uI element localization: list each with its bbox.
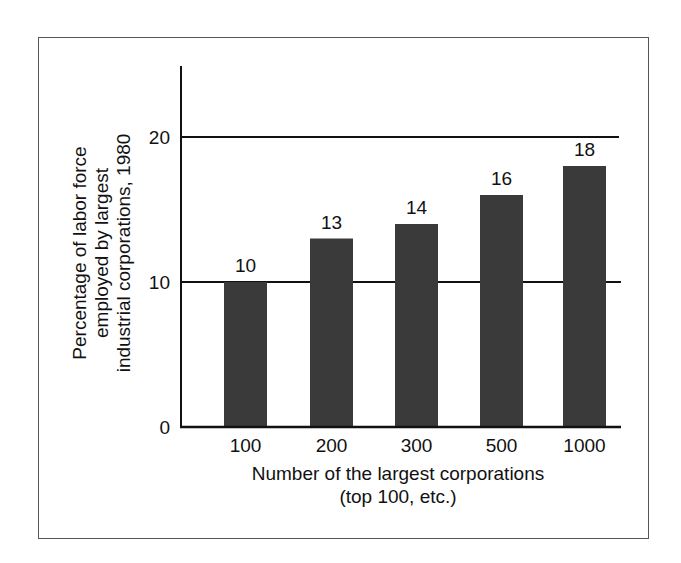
data-label-1000: 18 bbox=[574, 139, 595, 160]
data-label-100: 10 bbox=[235, 255, 256, 276]
y-axis-title-line1: Percentage of labor force bbox=[69, 146, 90, 359]
bar-500 bbox=[480, 195, 523, 427]
x-tick-200: 200 bbox=[316, 435, 348, 456]
x-tick-500: 500 bbox=[486, 435, 518, 456]
x-axis-subtitle: (top 100, etc.) bbox=[339, 486, 456, 507]
data-label-200: 13 bbox=[321, 212, 342, 233]
bar-1000 bbox=[563, 166, 606, 427]
x-tick-300: 300 bbox=[401, 435, 433, 456]
x-tick-100: 100 bbox=[230, 435, 262, 456]
y-tick-10: 10 bbox=[149, 272, 170, 293]
bar-300 bbox=[395, 224, 438, 427]
y-tick-20: 20 bbox=[149, 127, 170, 148]
bar-100 bbox=[224, 282, 267, 427]
x-tick-1000: 1000 bbox=[563, 435, 605, 456]
y-axis-title-line2: employed by largest bbox=[91, 167, 112, 338]
data-label-300: 14 bbox=[406, 197, 428, 218]
data-label-500: 16 bbox=[491, 168, 512, 189]
y-axis-title-line3: industrial corporations, 1980 bbox=[113, 134, 134, 373]
y-tick-0: 0 bbox=[159, 417, 170, 438]
x-axis-title: Number of the largest corporations bbox=[252, 463, 545, 484]
bar-chart: 0 10 20 10100132001430016500181000 Perce… bbox=[0, 0, 681, 563]
bar-200 bbox=[310, 239, 353, 428]
